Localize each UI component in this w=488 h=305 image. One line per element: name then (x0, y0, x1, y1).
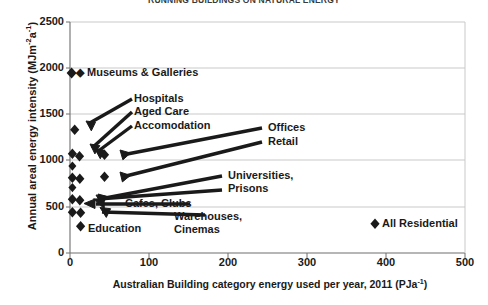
annotation-prisons: Prisons (228, 182, 268, 195)
marker-education (76, 221, 85, 231)
annotation-offices: Offices (268, 121, 305, 134)
marker-retail (100, 172, 109, 182)
annotation-cinemas: Cinemas (174, 223, 220, 236)
annotation-cafes-clubs: Cafes, Clubs (125, 197, 192, 210)
marker-warehouses (68, 207, 77, 217)
marker-cafes-clubs-2 (75, 195, 84, 205)
annotation-museums-galleries: ◆ Museums & Galleries (76, 66, 198, 79)
annotation-warehouses: Warehouses, (174, 210, 242, 223)
chart-container: RUNNING BUILDINGS ON NATURAL ENERGY Annu… (0, 0, 488, 305)
annotation-accomodation: Accomodation (134, 119, 210, 132)
annotation-hospitals: Hospitals (134, 92, 184, 105)
marker-universities (68, 173, 77, 183)
marker-prisons (75, 174, 84, 184)
annotation-education: Education (88, 222, 141, 235)
arrow-offices (120, 128, 262, 160)
diamond-marker-icon: ◆ (76, 66, 84, 78)
marker-all-residential (370, 219, 379, 229)
annotation-aged-care: Aged Care (134, 105, 189, 118)
annotation-retail: Retail (268, 135, 298, 148)
plot-area (0, 0, 488, 305)
marker-aged-care (68, 149, 77, 159)
annotation-all-residential: All Residential (382, 217, 458, 230)
annotation-universities: Universities, (228, 169, 293, 182)
marker-cinemas (76, 208, 85, 218)
marker-hospitals (70, 125, 79, 135)
arrow-hospitals (86, 99, 132, 131)
marker-cafes-clubs-1 (68, 194, 77, 204)
